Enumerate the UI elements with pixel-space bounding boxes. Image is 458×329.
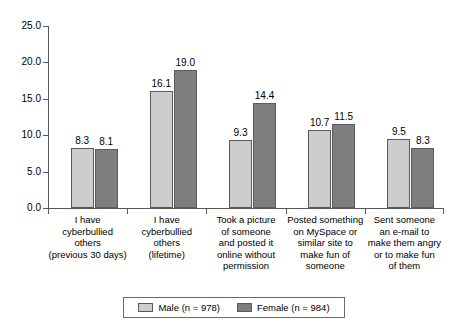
bar-value-label: 8.3 [416,135,430,147]
category-label-line: (previous 30 days) [45,249,130,261]
bar-male: 9.3 [229,140,252,208]
category-label-line: I have [124,214,209,226]
bar-group: 10.711.5 [308,26,354,208]
y-axis-tick-label: 0.0 [27,201,41,214]
bar-female: 11.5 [332,124,355,208]
y-axis-tick-label: 15.0 [22,92,41,105]
x-axis-category-labels: I havecyberbulliedothers(previous 30 day… [48,214,444,286]
category-label-line: someone [283,260,368,272]
bar-group: 8.38.1 [71,26,117,208]
category-label-line: I have [45,214,130,226]
bar-female: 8.3 [411,148,434,208]
legend-swatch-male-icon [138,303,153,312]
category-label-line: of them [362,260,447,272]
bar-group: 9.314.4 [229,26,275,208]
x-axis-category-label: I havecyberbulliedothers(lifetime) [124,214,209,260]
y-axis-tick-mark [43,26,48,27]
y-axis-line [48,26,49,209]
category-label-line: permission [203,260,288,272]
category-label-line: others [45,237,130,249]
y-axis-tick-mark [43,135,48,136]
y-axis-tick-mark [43,62,48,63]
x-axis-category-label: Sent someonean e-mail tomake them angryo… [362,214,447,272]
bar-value-label: 19.0 [176,57,195,69]
legend-swatch-female-icon [237,303,252,312]
bar-value-label: 10.7 [310,117,329,129]
x-axis-category-label: Took a pictureof someoneand posted itonl… [203,214,288,272]
bar-value-label: 9.3 [234,127,248,139]
y-axis-tick-label: 10.0 [22,128,41,141]
bar-group: 9.58.3 [387,26,433,208]
y-axis-tick-mark [43,99,48,100]
bar-female: 8.1 [95,149,118,208]
category-label-line: cyberbullied [124,226,209,238]
category-label-line: an e-mail to [362,226,447,238]
x-axis-category-label: I havecyberbulliedothers(previous 30 day… [45,214,130,260]
legend-entry-female: Female (n = 984) [237,302,330,313]
category-label-line: of someone [203,226,288,238]
y-axis-tick-label: 25.0 [22,19,41,32]
category-label-line: cyberbullied [45,226,130,238]
bar-male: 9.5 [387,139,410,208]
chart-legend: Male (n = 978) Female (n = 984) [123,297,345,318]
category-label-line: online without [203,249,288,261]
bar-value-label: 11.5 [334,111,353,123]
category-label-line: or to make fun [362,249,447,261]
bar-male: 8.3 [71,148,94,208]
category-label-line: make fun of [283,249,368,261]
y-axis-tick-mark [43,172,48,173]
plot-area: 0.05.010.015.020.025.0 8.38.116.119.09.3… [48,26,444,209]
category-label-line: Sent someone [362,214,447,226]
category-label-line: Took a picture [203,214,288,226]
x-axis-category-label: Posted somethingon MySpace orsimilar sit… [283,214,368,272]
y-axis-tick-label: 20.0 [22,55,41,68]
legend-entry-male: Male (n = 978) [138,302,220,313]
category-label-line: and posted it [203,237,288,249]
legend-label-male: Male (n = 978) [158,302,220,313]
bar-group: 16.119.0 [150,26,196,208]
bar-male: 16.1 [150,91,173,208]
category-label-line: Posted something [283,214,368,226]
bar-value-label: 9.5 [392,126,406,138]
bar-female: 19.0 [174,70,197,208]
category-label-line: (lifetime) [124,249,209,261]
category-label-line: others [124,237,209,249]
bar-male: 10.7 [308,130,331,208]
bar-chart-figure: 0.05.010.015.020.025.0 8.38.116.119.09.3… [0,0,458,329]
category-label-line: similar site to [283,237,368,249]
bar-female: 14.4 [253,103,276,208]
y-axis-tick-label: 5.0 [27,165,41,178]
bar-value-label: 14.4 [255,90,274,102]
legend-label-female: Female (n = 984) [257,302,330,313]
x-axis-line [48,208,444,209]
bar-value-label: 8.1 [99,136,113,148]
category-label-line: on MySpace or [283,226,368,238]
bar-value-label: 8.3 [75,135,89,147]
category-label-line: make them angry [362,237,447,249]
bar-value-label: 16.1 [152,78,171,90]
